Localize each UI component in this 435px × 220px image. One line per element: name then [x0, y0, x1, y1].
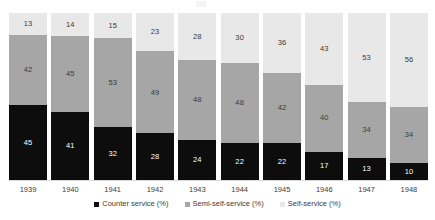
bar-value-label: 17 — [320, 162, 329, 170]
legend-label: Self-service (%) — [288, 200, 341, 208]
bar-column-1942: 234928 — [136, 13, 174, 180]
legend-swatch-icon — [94, 202, 99, 207]
bar-value-label: 41 — [66, 142, 75, 150]
chart-legend: Counter service (%)Semi-self-service (%)… — [0, 197, 435, 211]
bar-segment-self-service-1945: 36 — [263, 13, 301, 73]
bar-value-label: 22 — [235, 158, 244, 166]
bar-segment-self-service-1941: 15 — [94, 13, 132, 38]
x-axis-label-1946: 1946 — [305, 183, 343, 196]
x-axis-label-1941: 1941 — [94, 183, 132, 196]
x-axis-label-1940: 1940 — [51, 183, 89, 196]
bar-value-label: 48 — [235, 99, 244, 107]
bar-segment-self-service-1947: 53 — [348, 13, 386, 102]
bar-value-label: 15 — [108, 22, 117, 30]
x-axis-label-1943: 1943 — [178, 183, 216, 196]
bar-value-label: 34 — [405, 131, 414, 139]
bar-value-label: 13 — [362, 165, 371, 173]
bar-segment-semi-self-service-1944: 48 — [221, 63, 259, 143]
bar-value-label: 48 — [193, 96, 202, 104]
bar-value-label: 13 — [24, 20, 33, 28]
bar-segment-self-service-1946: 43 — [305, 13, 343, 85]
bar-segment-counter-service-1945: 22 — [263, 143, 301, 180]
bar-segment-counter-service-1946: 17 — [305, 152, 343, 180]
legend-label: Counter service (%) — [102, 200, 168, 208]
bar-segment-self-service-1939: 13 — [9, 13, 47, 35]
bar-value-label: 53 — [108, 79, 117, 87]
bar-column-1944: 304822 — [221, 13, 259, 180]
bar-segment-counter-service-1942: 28 — [136, 133, 174, 180]
bar-segment-self-service-1943: 28 — [178, 13, 216, 60]
bar-column-1941: 155332 — [94, 13, 132, 180]
bar-value-label: 32 — [108, 150, 117, 158]
bar-segment-self-service-1940: 14 — [51, 13, 89, 36]
stacked-bar-chart: 1342451445411553322349282848243048223642… — [0, 0, 435, 220]
x-axis-label-1944: 1944 — [221, 183, 259, 196]
bar-segment-semi-self-service-1941: 53 — [94, 38, 132, 127]
legend-item-2[interactable]: Self-service (%) — [280, 200, 341, 208]
bar-value-label: 49 — [151, 89, 160, 97]
x-axis-label-1948: 1948 — [390, 183, 428, 196]
bar-segment-self-service-1948: 56 — [390, 13, 428, 107]
bar-column-1948: 563410 — [390, 13, 428, 180]
bar-column-1939: 134245 — [9, 13, 47, 180]
bar-value-label: 24 — [193, 156, 202, 164]
bar-value-label: 45 — [24, 139, 33, 147]
legend-item-1[interactable]: Semi-self-service (%) — [185, 200, 264, 208]
bar-segment-semi-self-service-1943: 48 — [178, 60, 216, 140]
bar-segment-semi-self-service-1947: 34 — [348, 102, 386, 159]
x-axis-line — [9, 180, 428, 181]
x-axis-label-1947: 1947 — [348, 183, 386, 196]
bar-segment-counter-service-1943: 24 — [178, 140, 216, 180]
x-axis-tick-labels: 1939194019411942194319441945194619471948 — [9, 183, 428, 196]
bar-segment-semi-self-service-1948: 34 — [390, 107, 428, 164]
bar-value-label: 22 — [278, 158, 287, 166]
plot-area: 1342451445411553322349282848243048223642… — [9, 13, 428, 180]
bar-value-label: 14 — [66, 21, 75, 29]
legend-swatch-icon — [280, 202, 285, 207]
bar-segment-counter-service-1940: 41 — [51, 112, 89, 180]
bar-segment-semi-self-service-1945: 42 — [263, 73, 301, 143]
x-axis-label-1939: 1939 — [9, 183, 47, 196]
bar-segment-counter-service-1947: 13 — [348, 158, 386, 180]
x-axis-label-1945: 1945 — [263, 183, 301, 196]
bar-value-label: 28 — [151, 153, 160, 161]
bar-value-label: 23 — [151, 28, 160, 36]
bar-value-label: 43 — [320, 45, 329, 53]
bar-column-1943: 284824 — [178, 13, 216, 180]
bar-segment-semi-self-service-1940: 45 — [51, 36, 89, 111]
bar-value-label: 45 — [66, 70, 75, 78]
bar-value-label: 36 — [278, 39, 287, 47]
legend-swatch-icon — [185, 202, 190, 207]
bar-segment-self-service-1944: 30 — [221, 13, 259, 63]
bar-value-label: 42 — [24, 66, 33, 74]
bar-column-1947: 533413 — [348, 13, 386, 180]
bar-value-label: 28 — [193, 33, 202, 41]
bar-segment-counter-service-1948: 10 — [390, 163, 428, 180]
bar-value-label: 40 — [320, 114, 329, 122]
image-artifact — [196, 1, 206, 7]
bar-value-label: 10 — [405, 168, 414, 176]
bar-column-1946: 434017 — [305, 13, 343, 180]
bar-segment-counter-service-1944: 22 — [221, 143, 259, 180]
bar-segment-counter-service-1939: 45 — [9, 105, 47, 180]
bar-segment-semi-self-service-1946: 40 — [305, 85, 343, 152]
bar-value-label: 53 — [362, 54, 371, 62]
legend-label: Semi-self-service (%) — [193, 200, 264, 208]
bar-segment-semi-self-service-1939: 42 — [9, 35, 47, 105]
bar-value-label: 30 — [235, 34, 244, 42]
bar-value-label: 34 — [362, 126, 371, 134]
bar-value-label: 56 — [405, 56, 414, 64]
bar-value-label: 42 — [278, 104, 287, 112]
bar-segment-semi-self-service-1942: 49 — [136, 51, 174, 133]
bar-column-1945: 364222 — [263, 13, 301, 180]
bar-segment-counter-service-1941: 32 — [94, 127, 132, 180]
legend-item-0[interactable]: Counter service (%) — [94, 200, 168, 208]
bar-column-1940: 144541 — [51, 13, 89, 180]
bar-segment-self-service-1942: 23 — [136, 13, 174, 51]
x-axis-label-1942: 1942 — [136, 183, 174, 196]
